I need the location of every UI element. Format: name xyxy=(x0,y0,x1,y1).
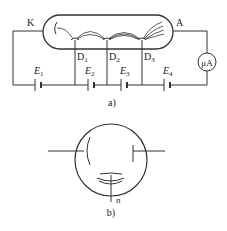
dynode-d1-label: D1 xyxy=(77,51,88,64)
dynode-d3-label: D3 xyxy=(144,51,155,64)
battery-e2 xyxy=(88,79,94,91)
photocathode xyxy=(55,22,57,34)
lead-n-label: n xyxy=(116,195,121,205)
electron-paths xyxy=(57,22,164,39)
cathode-wire xyxy=(13,31,43,85)
caption-b: b) xyxy=(107,207,115,219)
battery-e3 xyxy=(121,79,127,91)
tube-b-cathode xyxy=(87,137,90,165)
anode-label: A xyxy=(176,17,184,28)
tube-envelope xyxy=(43,15,173,49)
anode-wire xyxy=(173,31,207,53)
battery-e2-label: E2 xyxy=(84,65,95,78)
battery-e4 xyxy=(164,79,170,91)
battery-e3-label: E3 xyxy=(119,65,130,78)
dynode-d2-label: D2 xyxy=(109,51,120,64)
caption-a: a) xyxy=(108,97,116,109)
tube-b-grid-1 xyxy=(100,173,122,174)
battery-e4-label: E4 xyxy=(162,65,173,78)
cathode-label: K xyxy=(27,17,35,28)
photomultiplier-diagram: K A D1 D2 D3 E1 E2 E3 E4 μA a) n b) xyxy=(0,0,227,231)
battery-e1 xyxy=(35,79,41,91)
meter-return-wire xyxy=(170,71,207,85)
meter-label: μA xyxy=(201,58,213,68)
battery-e1-label: E1 xyxy=(33,65,44,78)
